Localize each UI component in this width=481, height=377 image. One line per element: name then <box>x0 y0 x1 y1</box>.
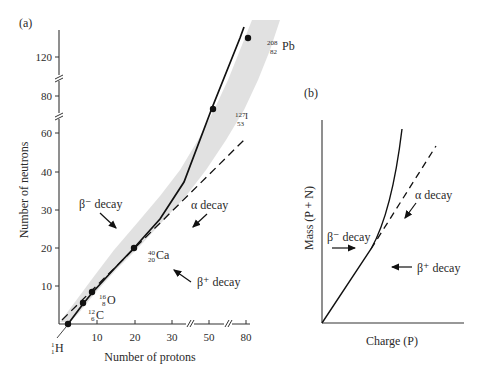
x-tick-label: 10 <box>92 331 104 343</box>
label-i127: 127 53 I <box>235 111 248 128</box>
beta-plus-label-b: β⁺ decay <box>417 261 460 275</box>
svg-text:C: C <box>96 308 104 322</box>
x-ticks <box>97 320 246 324</box>
y-tick-labels: 120 80 60 40 30 20 10 <box>36 51 53 292</box>
b-stability-curve <box>322 129 402 323</box>
x-tick-labels: 10 20 30 50 80 <box>92 331 253 343</box>
y-tick-label: 120 <box>36 51 53 63</box>
panel-b: (b) Charge (P) Mass (P + N) β⁻ decay α d… <box>302 86 464 348</box>
svg-text:8: 8 <box>102 300 106 308</box>
point-pb208 <box>245 35 251 41</box>
svg-text:82: 82 <box>270 48 278 56</box>
h1-leader <box>57 327 66 338</box>
svg-text:6: 6 <box>91 315 95 323</box>
svg-text:H: H <box>55 341 64 355</box>
y-tick-label: 60 <box>41 127 53 139</box>
y-ticks <box>55 57 59 286</box>
svg-text:I: I <box>245 111 248 121</box>
beta-plus-label-a: β⁺ decay <box>197 275 240 289</box>
panel-a-label: (a) <box>19 16 32 30</box>
point-i127 <box>210 106 216 112</box>
beta-minus-label-b: β⁻ decay <box>327 230 370 244</box>
x-tick-label: 30 <box>167 331 179 343</box>
alpha-label-b: α decay <box>415 188 452 202</box>
y-axis-label: Number of neutrons <box>17 141 31 238</box>
svg-text:O: O <box>107 293 116 307</box>
beta-minus-arrow-a <box>100 213 116 228</box>
x-tick-label: 80 <box>241 331 253 343</box>
x-tick-label: 50 <box>204 331 216 343</box>
figure-canvas: (a) 120 <box>0 0 481 377</box>
b-x-axis-label: Charge (P) <box>366 334 418 348</box>
point-o16 <box>89 289 95 295</box>
y-tick-label: 40 <box>41 166 53 178</box>
x-tick-label: 20 <box>130 331 142 343</box>
svg-text:20: 20 <box>148 256 156 264</box>
y-tick-label: 10 <box>41 280 53 292</box>
panel-a: (a) 120 <box>17 16 295 364</box>
label-h1: 1 1 H <box>51 341 64 356</box>
label-o16: 16 8 O <box>99 293 116 308</box>
panel-b-label: (b) <box>304 86 318 100</box>
y-tick-label: 80 <box>41 90 53 102</box>
b-y-axis-label: Mass (P + N) <box>302 186 316 250</box>
label-ca40: 40 20 Ca <box>148 248 170 264</box>
svg-text:Pb: Pb <box>282 39 295 53</box>
svg-text:208: 208 <box>267 39 278 47</box>
point-h1 <box>65 321 71 327</box>
alpha-arrow-b <box>405 203 416 218</box>
label-pb208: 208 82 Pb <box>267 39 295 56</box>
stability-band <box>60 20 280 322</box>
svg-text:53: 53 <box>237 120 245 128</box>
beta-minus-label-a: β⁻ decay <box>79 197 122 211</box>
beta-plus-arrow-a <box>174 270 191 282</box>
y-tick-label: 20 <box>41 242 53 254</box>
svg-text:Ca: Ca <box>156 248 170 262</box>
x-axis-label: Number of protons <box>104 350 196 364</box>
point-c12 <box>80 300 86 306</box>
alpha-label-a: α decay <box>191 198 228 212</box>
label-c12: 12 6 C <box>88 308 104 323</box>
point-ca40 <box>131 245 137 251</box>
alpha-arrow-a <box>193 214 207 227</box>
y-tick-label: 30 <box>41 204 53 216</box>
